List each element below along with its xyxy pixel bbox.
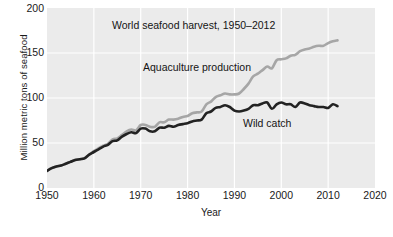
x-axis-label: Year (47, 207, 375, 218)
y-axis-ticks: 200 150 100 50 0 (0, 0, 44, 237)
x-tick-1950: 1950 (23, 190, 71, 201)
y-tick-150: 150 (2, 47, 44, 58)
plot-area (47, 8, 375, 188)
y-tick-100: 100 (2, 92, 44, 103)
x-tick-2020: 2020 (351, 190, 393, 201)
x-tick-1990: 1990 (210, 190, 258, 201)
chart-title: World seafood harvest, 1950–2012 (112, 19, 275, 31)
x-tick-1970: 1970 (117, 190, 165, 201)
x-tick-1980: 1980 (164, 190, 212, 201)
y-tick-200: 200 (2, 3, 44, 14)
x-tick-2010: 2010 (304, 190, 352, 201)
x-tick-1960: 1960 (70, 190, 118, 201)
y-tick-50: 50 (2, 137, 44, 148)
x-tick-2000: 2000 (257, 190, 305, 201)
chart-canvas (47, 8, 375, 188)
series-label-aquaculture: Aquaculture production (143, 61, 251, 73)
chart-figure: Million metric tons of seafood 200 150 1… (0, 0, 393, 237)
series-label-wild-catch: Wild catch (243, 117, 291, 129)
gridlines (47, 8, 375, 188)
